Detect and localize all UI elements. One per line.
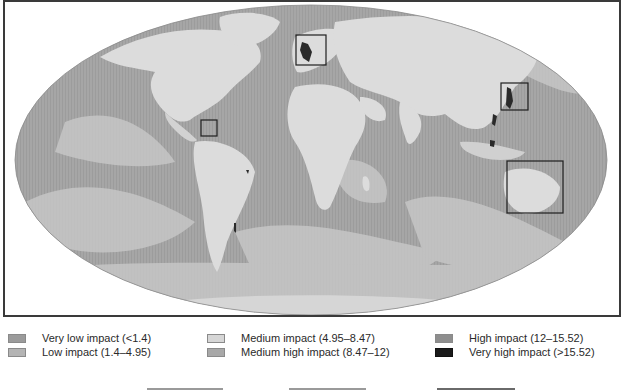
world-map (5, 2, 619, 315)
swatch-very-low (8, 334, 26, 343)
legend-label: Medium impact (4.95–8.47) (241, 332, 375, 345)
map-legend: Very low impact (<1.4) Low impact (1.4–4… (0, 328, 628, 358)
swatch-low (8, 348, 26, 357)
world-map-frame (3, 0, 621, 317)
legend-item-low: Low impact (1.4–4.95) (8, 346, 151, 359)
legend-label: Low impact (1.4–4.95) (42, 346, 151, 359)
swatch-high (435, 334, 453, 343)
legend-label: High impact (12–15.52) (469, 332, 583, 345)
legend-label: Very low impact (<1.4) (42, 332, 151, 345)
legend-item-very-high: Very high impact (>15.52) (435, 346, 595, 359)
legend-item-medium-high: Medium high impact (8.47–12) (207, 346, 390, 359)
legend-item-very-low: Very low impact (<1.4) (8, 332, 151, 345)
swatch-medium (207, 334, 225, 343)
legend-item-high: High impact (12–15.52) (435, 332, 583, 345)
legend-label: Medium high impact (8.47–12) (241, 346, 390, 359)
swatch-medium-high (207, 348, 225, 357)
legend-item-medium: Medium impact (4.95–8.47) (207, 332, 375, 345)
swatch-very-high (435, 348, 453, 357)
legend-label: Very high impact (>15.52) (469, 346, 595, 359)
